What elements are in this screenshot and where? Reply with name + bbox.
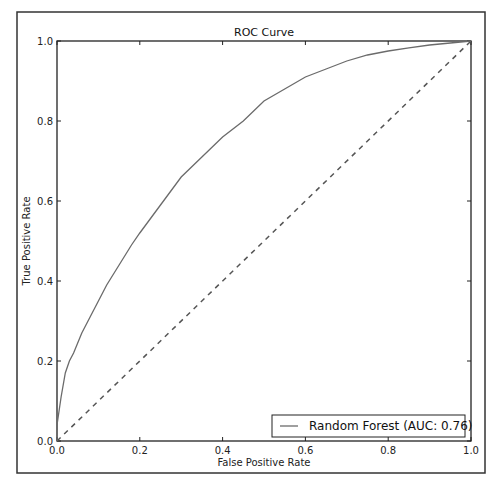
legend: Random Forest (AUC: 0.76) — [272, 415, 472, 437]
x-tick-label: 0.4 — [215, 445, 231, 456]
chart-title: ROC Curve — [234, 26, 294, 39]
x-tick-label: 0.2 — [132, 445, 148, 456]
y-tick-label: 0.2 — [37, 356, 53, 367]
y-tick-label: 1.0 — [37, 36, 53, 47]
y-tick-label: 0.0 — [37, 436, 53, 447]
roc-chart: ROC Curve 0.00.20.40.60.81.00.00.20.40.6… — [0, 0, 498, 492]
x-tick-label: 0.8 — [380, 445, 396, 456]
x-tick-label: 1.0 — [463, 445, 479, 456]
y-tick-label: 0.6 — [37, 196, 53, 207]
y-axis-label: True Positive Rate — [21, 196, 32, 286]
x-tick-label: 0.6 — [297, 445, 313, 456]
legend-label: Random Forest (AUC: 0.76) — [309, 419, 472, 433]
x-axis-label: False Positive Rate — [218, 457, 311, 468]
y-tick-label: 0.4 — [37, 276, 53, 287]
y-tick-label: 0.8 — [37, 116, 53, 127]
